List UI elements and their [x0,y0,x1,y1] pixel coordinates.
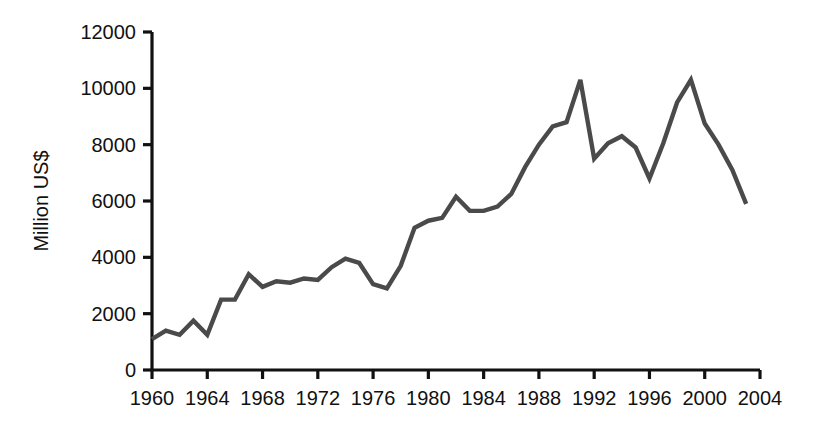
y-axis-tick-label: 2000 [92,303,137,325]
y-axis-tick-label: 6000 [92,190,137,212]
x-axis-tick-label: 1984 [461,387,506,409]
y-axis-tick-label: 0 [125,359,136,381]
x-axis-tick-label: 2000 [682,387,727,409]
chart-container: 020004000600080001000012000 196019641968… [0,0,813,440]
y-axis-group: 020004000600080001000012000 [80,21,152,381]
y-axis-tick-label: 10000 [80,77,136,99]
x-axis-tick-label: 1976 [351,387,396,409]
x-axis-tick-label: 1960 [130,387,175,409]
y-axis-title: Million US$ [30,150,52,251]
plot-area [152,80,746,339]
line-chart: 020004000600080001000012000 196019641968… [0,0,813,440]
x-axis-tick-label: 1980 [406,387,451,409]
x-axis-tick-label: 1964 [185,387,230,409]
x-axis-group: 1960196419681972197619801984198819921996… [130,370,783,409]
x-axis-tick-label: 1992 [572,387,617,409]
y-axis-tick-label: 12000 [80,21,136,43]
x-axis-tick-labels: 1960196419681972197619801984198819921996… [130,387,783,409]
x-axis-tick-label: 1972 [296,387,341,409]
y-axis-tick-label: 4000 [92,246,137,268]
y-axis-tick-label: 8000 [92,134,137,156]
x-axis-tick-label: 1968 [240,387,285,409]
x-axis-tick-label: 2004 [738,387,783,409]
x-axis-tick-label: 1996 [627,387,672,409]
x-axis-tick-label: 1988 [517,387,562,409]
y-axis-tick-labels: 020004000600080001000012000 [80,21,136,381]
data-series-line [152,80,746,339]
